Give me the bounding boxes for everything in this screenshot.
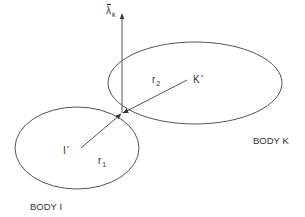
- diagram-graphics: [0, 0, 305, 217]
- contact-diagram: λk r2 K* I* r1 BODY K BODY I: [0, 0, 305, 217]
- i-center-mark: *: [67, 145, 69, 151]
- body-k-label: BODY K: [253, 136, 289, 146]
- i-center-symbol: I: [63, 145, 66, 156]
- body-i-label: BODY I: [30, 202, 62, 212]
- k-center-label: K*: [193, 75, 203, 85]
- r2-symbol: r: [152, 74, 155, 85]
- k-center-symbol: K: [193, 74, 200, 85]
- r1-symbol: r: [98, 155, 101, 166]
- normal-vector-label: λk: [106, 6, 116, 16]
- i-center-label: I*: [63, 146, 69, 156]
- r2-label: r2: [152, 75, 160, 85]
- r1-vector-arrow: [81, 114, 121, 148]
- lambda-subscript: k: [112, 11, 116, 18]
- r1-subscript: 1: [102, 161, 106, 168]
- r2-subscript: 2: [156, 80, 160, 87]
- r1-label: r1: [98, 156, 106, 166]
- lambda-symbol: λ: [106, 6, 111, 16]
- k-center-mark: *: [201, 74, 203, 80]
- body-i-ellipse: [15, 107, 139, 189]
